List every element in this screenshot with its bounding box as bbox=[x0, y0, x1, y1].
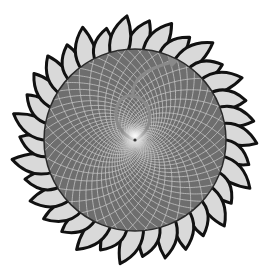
sunflower-illustration bbox=[0, 0, 264, 270]
center-point bbox=[133, 138, 136, 141]
sunflower-figure bbox=[0, 0, 264, 270]
center-glow bbox=[121, 122, 149, 150]
